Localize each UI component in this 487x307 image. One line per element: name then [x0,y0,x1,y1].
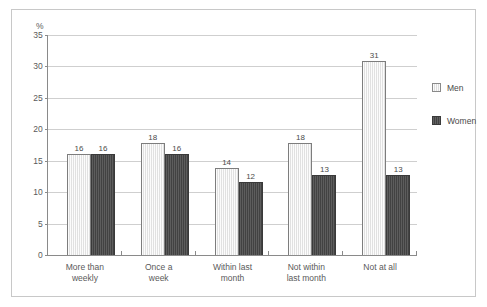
bar-group: 1816Once aweek [122,35,196,255]
legend-swatch-women-icon [432,116,441,125]
y-axis-tick-label: 35 [33,30,43,40]
y-axis-tick-label: 10 [33,187,43,197]
y-axis-tick-label: 25 [33,93,43,103]
x-axis-category-line: Once a [122,262,196,273]
bar-women-1[interactable]: 16 [165,154,189,255]
x-axis-category-line: Within last [196,262,270,273]
plot-area: 05101520253035 1616More thanweekly1816On… [47,35,417,256]
x-axis-category-line: More than [48,262,122,273]
bar-men-0[interactable]: 16 [67,154,91,255]
x-axis-tick [416,251,417,255]
bar-value-label: 16 [99,144,108,153]
legend-item-women[interactable]: Women [432,115,476,126]
x-axis-category-line: week [122,273,196,284]
bar-women-4[interactable]: 13 [386,175,410,255]
bar-women-0[interactable]: 16 [91,154,115,255]
x-axis-category-label: Once aweek [122,262,196,283]
y-axis-tick-label: 20 [33,124,43,134]
bar-value-label: 16 [172,144,181,153]
bar-women-2[interactable]: 12 [239,182,263,255]
bar-men-3[interactable]: 18 [288,143,312,255]
chart-legend: Men Women [432,82,476,148]
y-axis-tick-label: 0 [38,250,43,260]
x-axis-category-line: month [196,273,270,284]
y-axis-tick-label: 30 [33,61,43,71]
bar-men-4[interactable]: 31 [362,61,386,255]
x-axis-category-line: weekly [48,273,122,284]
bar-men-2[interactable]: 14 [215,168,239,255]
x-axis-category-label: Not at all [343,262,417,273]
bar-value-label: 13 [320,165,329,174]
y-axis-tick-label: 15 [33,156,43,166]
bar-value-label: 18 [148,133,157,142]
x-axis-category-line: last month [269,273,343,284]
x-axis-category-line: Not within [269,262,343,273]
y-axis-tick-label: 5 [38,219,43,229]
x-axis-category-label: Within lastmonth [196,262,270,283]
bar-group: 3113Not at all [343,35,417,255]
bar-women-3[interactable]: 13 [312,175,336,255]
bar-value-label: 16 [75,144,84,153]
legend-label-women: Women [447,116,476,126]
bar-value-label: 18 [296,133,305,142]
y-axis-tick [45,255,48,256]
bar-value-label: 14 [222,158,231,167]
legend-label-men: Men [447,83,464,93]
legend-swatch-men-icon [432,83,441,92]
legend-item-men[interactable]: Men [432,82,476,93]
bar-value-label: 12 [246,172,255,181]
x-axis-category-label: Not withinlast month [269,262,343,283]
bar-group: 1813Not withinlast month [269,35,343,255]
bar-group: 1412Within lastmonth [196,35,270,255]
bar-men-1[interactable]: 18 [141,143,165,255]
bar-value-label: 31 [370,51,379,60]
bar-value-label: 13 [394,165,403,174]
bar-group: 1616More thanweekly [48,35,122,255]
x-axis-category-label: More thanweekly [48,262,122,283]
chart-figure: % 05101520253035 1616More thanweekly1816… [11,9,476,297]
x-axis-category-line: Not at all [343,262,417,273]
